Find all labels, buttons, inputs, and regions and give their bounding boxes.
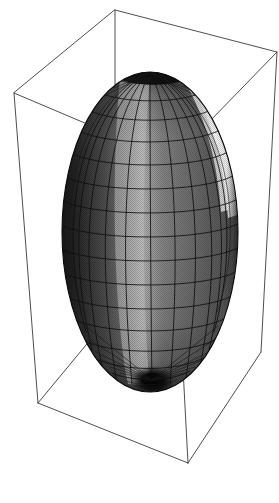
figure-root [0,0,279,503]
bbox-vertical-edge-left [14,93,38,403]
bbox-bottom-edge-left-front [38,403,188,463]
ellipsoid-dither-overlay [58,68,242,396]
bbox-vertical-edge-right [261,52,277,352]
bbox-bottom-edge-right-front [188,352,261,463]
plot-canvas [0,0,279,503]
ellipsoid-surface [58,68,242,396]
